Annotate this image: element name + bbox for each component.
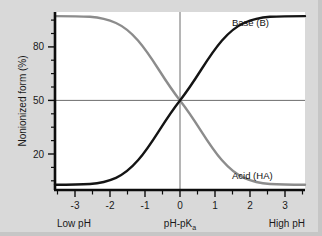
x-axis-left-caption: Low pH	[57, 218, 91, 229]
x-tick-label-2: 2	[247, 200, 253, 211]
x-tick-label-neg1: -1	[141, 200, 150, 211]
x-tick-label-0: 0	[177, 200, 183, 211]
chart-figure: 20 50 80 -3 -2 -1 0 1 2 3 pH-pKa Low pH …	[0, 0, 322, 236]
x-tick-label-1: 1	[212, 200, 218, 211]
series-annotation-acid: Acid (HA)	[232, 170, 273, 181]
y-tick-label-80: 80	[33, 41, 45, 52]
y-tick-label-20: 20	[33, 149, 45, 160]
series-annotation-base: Base (B)	[232, 17, 269, 28]
x-axis-label-main: pH-pK	[164, 218, 193, 229]
ph-pka-nonionized-form-chart: 20 50 80 -3 -2 -1 0 1 2 3 pH-pKa Low pH …	[0, 0, 322, 236]
x-tick-label-neg2: -2	[106, 200, 115, 211]
y-tick-label-50: 50	[33, 95, 45, 106]
y-axis-label: Nonionized form (%)	[17, 55, 28, 146]
x-tick-label-3: 3	[282, 200, 288, 211]
x-tick-label-neg3: -3	[71, 200, 80, 211]
x-axis-right-caption: High pH	[269, 218, 305, 229]
x-axis-label-subscript: a	[192, 224, 196, 231]
